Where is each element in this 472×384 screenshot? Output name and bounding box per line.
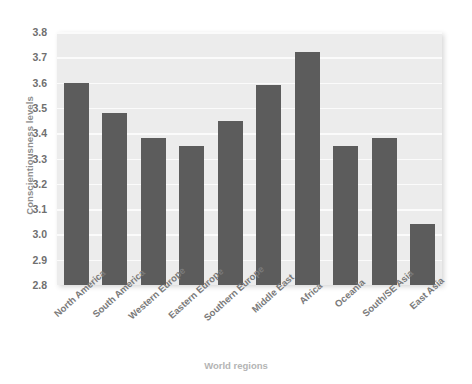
bar[interactable] [295, 52, 320, 285]
y-axis-tick-label: 3.6 [32, 77, 47, 89]
bar[interactable] [333, 146, 358, 285]
y-axis-tick-label: 3.7 [32, 51, 47, 63]
x-axis-tick-slot: Middle East [250, 285, 289, 355]
x-axis-tick-slot: East Asia [404, 285, 443, 355]
bar-slot [365, 32, 404, 285]
x-axis-tick-labels: North AmericaSouth AmericaWestern Europe… [57, 285, 442, 357]
bar-slot [404, 32, 443, 285]
x-axis-title: World regions [0, 360, 472, 371]
bar-slot [96, 32, 135, 285]
bar-slot [250, 32, 289, 285]
bar-slot [211, 32, 250, 285]
y-axis-tick-label: 3.5 [32, 102, 47, 114]
y-axis-tick-label: 3.3 [32, 153, 47, 165]
x-axis-tick-slot: Southern Europe [211, 285, 250, 355]
bar-slot [288, 32, 327, 285]
plot-area [57, 32, 442, 285]
x-axis-tick-slot: Western Europe [134, 285, 173, 355]
x-axis-tick-slot: South/SE Asia [365, 285, 404, 355]
bar[interactable] [141, 138, 166, 285]
bar-slot [134, 32, 173, 285]
bar-series [57, 32, 442, 285]
bar[interactable] [372, 138, 397, 285]
y-axis-tick-label: 3.0 [32, 228, 47, 240]
bar[interactable] [218, 121, 243, 285]
bar-slot [327, 32, 366, 285]
bar[interactable] [102, 113, 127, 285]
x-axis-tick-slot: Africa [288, 285, 327, 355]
bar-chart: Conscientiousness levels 3.83.73.63.53.4… [0, 0, 472, 384]
y-axis-tick-label: 3.2 [32, 178, 47, 190]
x-axis-tick-slot: North America [57, 285, 96, 355]
y-axis-tick-label: 3.8 [32, 26, 47, 38]
bar[interactable] [64, 83, 89, 285]
y-axis-tick-label: 3.4 [32, 127, 47, 139]
bar[interactable] [256, 85, 281, 285]
bar-slot [173, 32, 212, 285]
bar-slot [57, 32, 96, 285]
y-axis-tick-labels: 3.83.73.63.53.43.33.23.13.02.92.8 [0, 32, 52, 285]
y-axis-tick-label: 2.8 [32, 279, 47, 291]
bar[interactable] [179, 146, 204, 285]
y-axis-tick-label: 2.9 [32, 254, 47, 266]
x-axis-tick-slot: Oceania [327, 285, 366, 355]
x-axis-tick-slot: South America [96, 285, 135, 355]
y-axis-tick-label: 3.1 [32, 203, 47, 215]
